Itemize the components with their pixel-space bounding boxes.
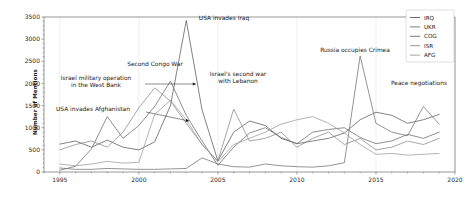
annotation-text: USA invades Iraq [199, 15, 250, 22]
legend-label-isr[interactable]: ISR [424, 43, 433, 49]
x-tick-label: 2015 [368, 176, 383, 183]
plot-border [44, 17, 455, 172]
legend-label-irq[interactable]: IRQ [424, 15, 435, 21]
annotation-text: Russia occupies Crimea [320, 47, 390, 54]
line-chart-canvas: 0500100015002000250030003500 19952000200… [0, 0, 470, 203]
series-lines-group [60, 21, 439, 171]
y-tick-label: 1000 [25, 124, 40, 131]
y-tick-label: 3500 [25, 13, 40, 20]
series-line-isr [60, 88, 439, 161]
annotation-line: USA invades Iraq [199, 15, 250, 22]
legend-label-ukr[interactable]: UKR [424, 24, 436, 30]
annotation-line: with Lebanon [218, 78, 258, 84]
y-tick-label: 3000 [25, 35, 40, 42]
annotation-text: USA invades Afghanistan [56, 106, 130, 113]
annotation-text: Peace negotiations [391, 80, 447, 87]
axis-spines-group [44, 17, 455, 172]
annotation-line: Israel military operation [61, 75, 132, 82]
annotation-text: Israel's second warwith Lebanon [210, 71, 267, 84]
y-tick-label: 2000 [25, 80, 40, 87]
annotation-text: Second Congo War [127, 61, 183, 68]
legend[interactable]: IRQUKRCOGISRAFG [406, 10, 454, 62]
annotation-line: Second Congo War [127, 61, 183, 68]
y-tick-label: 500 [29, 146, 41, 153]
y-axis-ticks-group: 0500100015002000250030003500 [25, 13, 44, 175]
annotations-group: Israel military operationin the West Ban… [56, 15, 447, 122]
annotation-line: in the West Bank [71, 82, 122, 88]
annotation-line: Israel's second war [210, 71, 267, 77]
annotation-arrowhead [193, 82, 196, 85]
series-line-irq [60, 21, 439, 161]
y-tick-label: 0 [36, 168, 40, 175]
series-line-cog [60, 81, 439, 170]
x-tick-label: 1995 [52, 176, 67, 183]
x-tick-label: 2010 [289, 176, 304, 183]
annotation-line: Peace negotiations [391, 80, 447, 87]
annotation-line: Russia occupies Crimea [320, 47, 390, 54]
x-tick-label: 2020 [447, 176, 462, 183]
x-tick-label: 2000 [131, 176, 146, 183]
legend-label-afg[interactable]: AFG [424, 52, 435, 58]
x-tick-label: 2005 [210, 176, 225, 183]
annotation-arrow [146, 112, 189, 121]
annotation-text: Israel military operationin the West Ban… [61, 75, 132, 88]
y-tick-label: 1500 [25, 102, 40, 109]
y-tick-label: 2500 [25, 57, 40, 64]
legend-label-cog[interactable]: COG [424, 33, 437, 39]
annotation-line: USA invades Afghanistan [56, 106, 130, 113]
gridlines-group [60, 17, 455, 172]
chart-figure: Number of Mentions 050010001500200025003… [0, 0, 470, 203]
x-axis-ticks-group: 199520002005201020152020 [44, 172, 463, 183]
